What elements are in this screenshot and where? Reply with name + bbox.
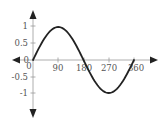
x-tick-label: 90 <box>53 63 64 73</box>
y-tick-label: -1 <box>20 88 28 98</box>
y-tick-label: 0.5 <box>14 38 28 48</box>
y-tick-label: 1 <box>23 21 28 31</box>
y-axis-down-arrow-icon <box>30 109 37 118</box>
x-tick-label: 270 <box>101 63 117 73</box>
sine-chart: 1 0.5 0 -0.5 -1 0 90 180 270 360 <box>0 0 166 129</box>
x-axis-left-arrow-icon <box>12 57 20 64</box>
y-axis-up-arrow-icon <box>30 10 37 19</box>
y-tick-label: -0.5 <box>12 72 28 82</box>
x-tick-label: 0 <box>26 61 31 71</box>
x-axis-right-arrow-icon <box>150 57 158 64</box>
